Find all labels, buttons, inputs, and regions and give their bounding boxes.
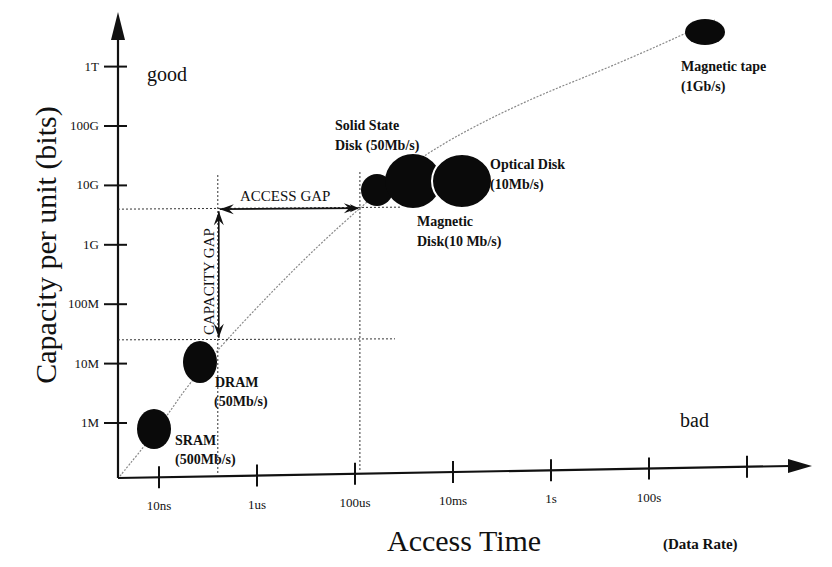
optical-disk-label: Optical Disk <box>490 157 565 172</box>
data-point-sram <box>137 409 171 449</box>
capacity-gap-label: CAPACITY GAP <box>201 228 217 335</box>
storage-hierarchy-chart: 1M10M100M1G10G100G1T 10ns1us100us10ms1s1… <box>0 0 832 567</box>
y-tick-label: 1M <box>81 415 100 430</box>
sram-rate: (500Mb/s) <box>175 452 236 468</box>
y-tick-label: 100G <box>70 118 99 133</box>
x-tick-label: 10ns <box>147 498 172 513</box>
y-tick-label: 10M <box>74 356 99 371</box>
data-point-optical-disk <box>432 154 492 208</box>
dram-label: DRAM <box>215 375 259 390</box>
magnetic-disk-label-line1: Magnetic <box>417 214 473 229</box>
x-tick-label: 10ms <box>439 493 467 508</box>
sram-label: SRAM <box>175 433 216 448</box>
access-gap-label: ACCESS GAP <box>240 188 330 204</box>
dram-capacity-guide <box>118 339 395 340</box>
tape-label: Magnetic tape <box>681 59 766 74</box>
data-point-dram <box>183 341 217 383</box>
y-tick-label: 10G <box>77 177 99 192</box>
x-tick-label: 1us <box>248 497 266 512</box>
x-axis-title: Access Time <box>387 524 541 557</box>
x-axis-suffix: (Data Rate) <box>663 536 738 553</box>
point-labels: SRAM (500Mb/s) DRAM (50Mb/s) Solid State… <box>175 59 766 468</box>
good-label: good <box>147 63 187 86</box>
data-point-magnetic-tape <box>685 19 725 45</box>
bad-label: bad <box>680 409 709 431</box>
y-axis-arrow-icon <box>111 12 125 40</box>
x-tick-label: 1s <box>545 491 557 506</box>
x-tick-label: 100s <box>637 490 662 505</box>
x-tick-label: 100us <box>339 495 370 510</box>
ssd-label-line2: Disk (50Mb/s) <box>335 138 420 154</box>
dram-rate: (50Mb/s) <box>214 394 268 410</box>
y-tick-label: 1G <box>83 237 99 252</box>
ssd-label-line1: Solid State <box>335 118 399 133</box>
optical-disk-rate: (10Mb/s) <box>490 177 544 193</box>
x-axis-arrow-icon <box>788 459 812 473</box>
y-axis-title: Capacity per unit (bits) <box>29 106 63 383</box>
tape-rate: (1Gb/s) <box>681 79 726 95</box>
y-tick-label: 1T <box>85 59 100 74</box>
x-ticks: 10ns1us100us10ms1s100s <box>147 456 747 513</box>
y-tick-label: 100M <box>68 296 100 311</box>
access-gap-arrow <box>220 208 358 209</box>
magnetic-disk-label-line2: Disk(10 Mb/s) <box>417 234 502 250</box>
